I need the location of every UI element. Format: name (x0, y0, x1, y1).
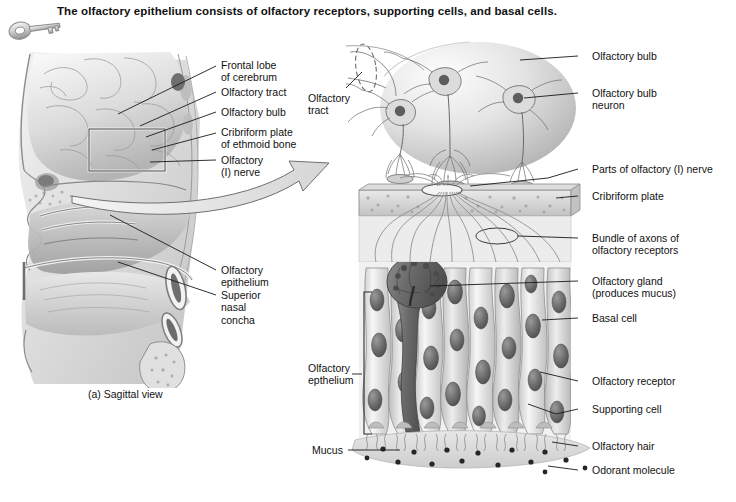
label-basal-cell: Basal cell (592, 312, 637, 324)
label-olfactory-hair: Olfactory hair (592, 440, 654, 452)
figure-title: The olfactory epithelium consists of olf… (57, 4, 677, 18)
label-parts-of-olfactory-nerve: Parts of olfactory (I) nerve (592, 163, 713, 175)
label-frontal-lobe: Frontal lobe of cerebrum (221, 59, 277, 84)
label-olfactory-bulb-neuron: Olfactory bulb neuron (592, 87, 657, 112)
label-olfactory-nerve: Olfactory (I) nerve (221, 154, 263, 179)
label-olfactory-bulb-magnified: Olfactory bulb (592, 50, 657, 62)
label-olfactory-receptor: Olfactory receptor (592, 375, 675, 387)
label-olfactory-gland: Olfactory gland (produces mucus) (592, 275, 676, 300)
label-supporting-cell: Supporting cell (592, 403, 661, 415)
label-odorant-molecule: Odorant molecule (592, 464, 675, 476)
sagittal-view-caption: (a) Sagittal view (88, 388, 163, 400)
label-olfactory-epithelium-magnified: Olfactory epthelium (308, 362, 354, 387)
label-olfactory-bulb: Olfactory bulb (221, 106, 286, 118)
olfactory-bulb-illustration (346, 42, 576, 174)
key-icon (6, 14, 68, 44)
cribriform-plate-illustration (359, 184, 580, 216)
label-olfactory-tract-magnified: Olfactory tract (308, 92, 350, 117)
label-cribriform-plate-magnified: Cribriform plate (592, 190, 664, 202)
label-mucus: Mucus (312, 444, 343, 456)
mucus-layer-illustration (352, 431, 590, 475)
label-cribriform-plate: Cribriform plate of ethmoid bone (221, 126, 296, 151)
label-bundle-of-axons: Bundle of axons of olfactory receptors (592, 232, 679, 257)
figure-canvas: The olfactory epithelium consists of olf… (0, 0, 736, 502)
sagittal-head-illustration (19, 52, 200, 392)
label-superior-nasal-concha: Superior nasal concha (221, 289, 261, 326)
label-olfactory-epithelium: Olfactory epithelium (221, 264, 269, 289)
label-olfactory-tract: Olfactory tract (221, 86, 286, 98)
